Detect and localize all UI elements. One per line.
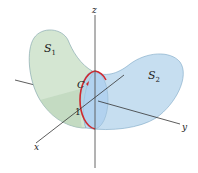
diagram-canvas: z y x S1 S2 C 1 <box>0 0 198 173</box>
x-axis-label: x <box>34 142 39 152</box>
curve-c-label: C <box>77 79 85 90</box>
tick-label-1: 1 <box>75 107 81 117</box>
surfaces-diagram: z y x S1 S2 C 1 <box>0 0 198 173</box>
y-axis-label: y <box>181 122 188 132</box>
z-axis-label: z <box>91 5 97 15</box>
